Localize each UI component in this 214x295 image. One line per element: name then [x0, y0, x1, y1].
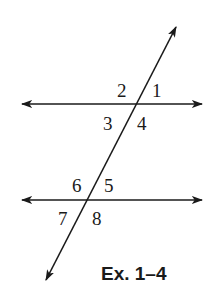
angle-label-7: 7 — [58, 208, 68, 229]
angle-label-8: 8 — [92, 208, 102, 229]
angle-label-2: 2 — [117, 80, 127, 101]
figure-caption: Ex. 1–4 — [101, 263, 167, 284]
angle-label-6: 6 — [72, 175, 82, 196]
angle-label-4: 4 — [137, 113, 147, 134]
parallel-lines-diagram: 2 1 3 4 6 5 7 8 Ex. 1–4 — [0, 0, 214, 295]
angle-label-1: 1 — [152, 80, 162, 101]
angle-label-3: 3 — [103, 113, 113, 134]
angle-label-5: 5 — [104, 175, 114, 196]
transversal — [46, 27, 176, 280]
